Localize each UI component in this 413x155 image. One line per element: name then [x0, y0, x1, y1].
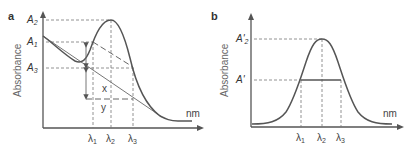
panel-b: b Absorbance A'2 A' λ1 λ2 λ3 nm: [211, 10, 404, 144]
panel-a-spectrum-curve: [43, 20, 192, 121]
panel-a: a Absorbance x y A2 A1 A3: [8, 10, 204, 145]
panel-a-y-annotation: y: [101, 102, 106, 113]
panel-b-lambda2-label: λ2: [317, 132, 326, 144]
panel-b-x-arrow-icon: [397, 124, 404, 130]
panel-b-ylabel: Absorbance: [219, 43, 230, 97]
panel-b-lambda3-label: λ3: [336, 132, 345, 144]
panel-b-nm-label: nm: [383, 108, 397, 119]
panel-a-x-arrow-icon: [197, 125, 204, 131]
panel-a-lambda3-label: λ3: [128, 133, 137, 145]
panel-b-A2-label: A'2: [235, 33, 249, 45]
panel-a-ylabel: Absorbance: [12, 43, 23, 97]
panel-b-label: b: [211, 10, 218, 22]
figure: a Absorbance x y A2 A1 A3: [0, 0, 413, 155]
panel-b-A-label: A': [235, 74, 246, 85]
panel-a-x-annotation: x: [102, 83, 107, 94]
panel-a-lambda2-label: λ2: [106, 133, 115, 145]
panel-b-y-arrow-icon: [248, 13, 254, 20]
panel-a-A2-label: A2: [26, 14, 38, 26]
panel-a-nm-label: nm: [186, 108, 200, 119]
panel-a-y-arrow-icon: [40, 11, 46, 18]
panel-a-lambda1-label: λ1: [88, 133, 97, 145]
panel-a-A3-label: A3: [26, 62, 38, 74]
panel-b-lambda1-label: λ1: [296, 132, 305, 144]
panel-a-A1-label: A1: [26, 36, 38, 48]
panel-a-label: a: [8, 10, 15, 22]
